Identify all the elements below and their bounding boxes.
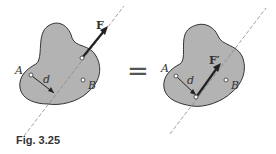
rigid-body-right: [164, 24, 245, 106]
label-f-left: F: [96, 19, 104, 32]
label-a-left: A: [14, 64, 23, 77]
label-b-left: B: [87, 79, 96, 92]
right-panel: A B d F′: [160, 8, 266, 134]
figure-caption: Fig. 3.25: [16, 134, 60, 146]
point-b-left: [81, 78, 85, 82]
label-b-right: B: [230, 79, 239, 92]
point-of-application-left: [80, 56, 84, 60]
label-d-right: d: [187, 74, 194, 87]
equivalent-forces-diagram: A B d F = A B d F′: [0, 0, 276, 154]
point-of-application-right: [194, 95, 198, 99]
label-f-prime-right: F′: [209, 54, 220, 67]
equals-sign: =: [127, 56, 149, 86]
left-panel: A B d F: [14, 6, 124, 136]
point-a-left: [29, 73, 33, 77]
label-a-right: A: [160, 62, 169, 75]
label-d-left: d: [43, 73, 50, 86]
rigid-body-left: [20, 23, 100, 104]
point-b-right: [224, 78, 228, 82]
point-a-right: [174, 74, 178, 78]
